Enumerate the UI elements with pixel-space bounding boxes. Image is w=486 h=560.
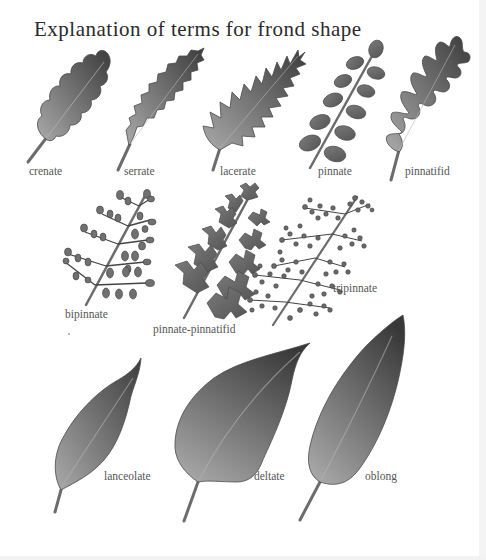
lanceolate-leaf-icon <box>55 358 141 512</box>
label-bipinnate: bipinnate <box>65 308 108 320</box>
label-deltate: deltate <box>254 470 285 482</box>
serrate-leaf-icon <box>118 48 204 170</box>
frond-illustrations <box>0 0 486 560</box>
oblong-leaf-icon <box>300 315 405 520</box>
lacerate-leaf-icon <box>203 50 306 170</box>
crenate-leaf-icon <box>28 50 110 162</box>
tripinnate-frond-icon <box>248 196 375 326</box>
bipinnate-frond-icon <box>63 190 156 306</box>
label-crenate: crenate <box>29 165 62 177</box>
pinnate-pinnatifid-frond-icon <box>175 183 270 319</box>
label-pinnate-pinnatifid: pinnate-pinnatifid <box>153 323 235 335</box>
label-pinnate: pinnate <box>318 165 352 177</box>
label-tripinnate: tripinnate <box>333 282 377 294</box>
label-oblong: oblong <box>365 470 397 482</box>
pinnatifid-leaf-icon <box>386 36 470 180</box>
deltate-leaf-icon <box>175 343 310 521</box>
label-lacerate: lacerate <box>220 165 256 177</box>
label-pinnatifid: pinnatifid <box>405 165 450 177</box>
stray-mark <box>68 333 70 335</box>
pinnate-frond-icon <box>297 38 386 168</box>
label-serrate: serrate <box>124 165 155 177</box>
label-lanceolate: lanceolate <box>104 470 151 482</box>
